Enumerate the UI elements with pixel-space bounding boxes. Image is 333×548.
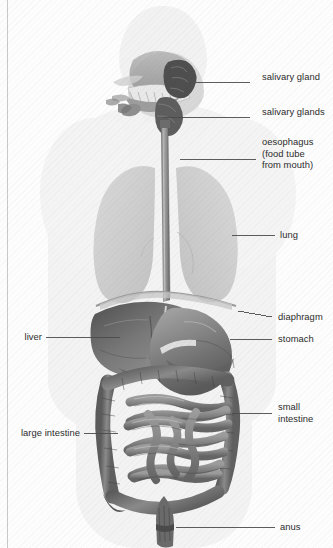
label-lung: lung <box>280 229 298 241</box>
label-diaphragm: diaphragm <box>278 311 323 323</box>
digestive-system-diagram: salivary gland salivary glands oesophagu… <box>0 0 333 548</box>
label-large-intestine: large intestine <box>0 427 80 439</box>
label-oesophagus: oesophagus (food tube from mouth) <box>262 136 314 171</box>
label-liver: liver <box>0 331 42 343</box>
leader-diaphragm <box>238 311 272 317</box>
label-salivary-glands: salivary glands <box>262 106 325 118</box>
label-anus: anus <box>280 521 301 533</box>
label-small-intestine: small intestine <box>278 401 313 424</box>
label-salivary-gland: salivary gland <box>262 71 320 83</box>
label-stomach: stomach <box>278 333 314 345</box>
